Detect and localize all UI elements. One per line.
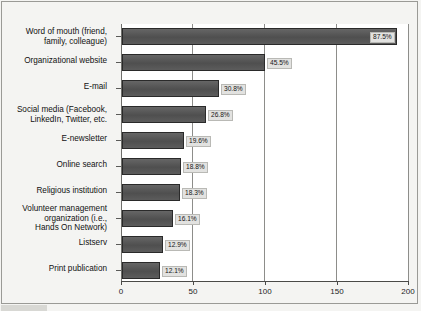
category-label: Online search [0,160,107,170]
x-tick-label-100: 100 [258,287,271,296]
bar-fill [123,237,162,252]
bar[interactable] [122,132,184,149]
category-tick [116,114,121,115]
category-tick [116,166,121,167]
bar-fill [123,159,180,174]
bar-row: Online search 18.8% [0,157,421,182]
category-label: Organizational website [0,56,107,66]
category-tick [116,244,121,245]
category-tick [116,218,121,219]
bar-row: Organizational website 45.5% [0,53,421,78]
bar-row: Print publication 12.1% [0,261,421,286]
bar-fill [123,29,396,44]
category-label: Listserv [0,238,107,248]
bar-value-label: 18.8% [183,162,208,173]
bar[interactable] [122,262,160,279]
bar-value-label: 26.8% [208,110,233,121]
bar-value-label: 45.5% [267,58,292,69]
bar-row: E-mail 30.8% [0,79,421,104]
x-tick-label-200: 200 [401,287,414,296]
bar-value-label: 12.9% [165,240,190,251]
bar-fill [123,185,179,200]
category-tick [116,140,121,141]
bar-value-label: 19.6% [186,136,211,147]
category-label: E-mail [0,82,107,92]
bar[interactable] [122,80,219,97]
bar-row: Listserv 12.9% [0,235,421,260]
bar[interactable] [122,106,206,123]
category-tick [116,270,121,271]
bar-fill [123,55,264,70]
category-label: Volunteer management organization (i.e.,… [0,204,107,233]
bar-value-label: 18.3% [182,188,207,199]
category-tick [116,36,121,37]
category-tick [116,192,121,193]
bar-value-label: 16.1% [175,214,200,225]
x-tick-label-50: 50 [189,287,198,296]
bar[interactable] [122,158,181,175]
bar-row: Word of mouth (friend, family, colleague… [0,27,421,52]
bar-fill [123,211,172,226]
page-corner-mark [1,305,47,311]
category-label: Social media (Facebook, LinkedIn, Twitte… [0,105,107,124]
bar-row: E-newsletter 19.6% [0,131,421,156]
bar-row: Volunteer management organization (i.e.,… [0,209,421,234]
category-label: Print publication [0,264,107,274]
category-label: Religious institution [0,186,107,196]
bar-fill [123,263,159,278]
bar-value-label: 12.1% [162,266,187,277]
bar[interactable] [122,236,163,253]
bar[interactable] [122,184,180,201]
bar-fill [123,107,205,122]
bar-value-label: 87.5% [370,32,395,43]
bar[interactable] [122,54,265,71]
category-label: Word of mouth (friend, family, colleague… [0,27,107,46]
x-tick-label-150: 150 [330,287,343,296]
bar-fill [123,133,183,148]
x-tick-label-0: 0 [119,287,123,296]
bar-chart: 0 50 100 150 200 Word of mouth (friend, … [0,0,421,311]
bar-fill [123,81,218,96]
bar-row: Social media (Facebook, LinkedIn, Twitte… [0,105,421,130]
category-tick [116,62,121,63]
bar[interactable] [122,28,397,45]
category-label: E-newsletter [0,134,107,144]
category-tick [116,88,121,89]
bar[interactable] [122,210,173,227]
bar-value-label: 30.8% [221,84,246,95]
